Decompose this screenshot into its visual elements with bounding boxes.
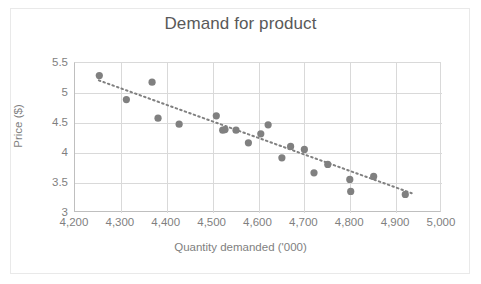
data-point[interactable] (370, 173, 377, 180)
y-axis-tick-label: 5 (38, 86, 68, 98)
x-axis-tick-label: 4,400 (144, 216, 188, 229)
data-point[interactable] (221, 126, 228, 133)
chart-title: Demand for product (0, 14, 481, 34)
data-point[interactable] (148, 79, 155, 86)
x-axis-tick-label: 4,900 (373, 216, 417, 229)
data-point[interactable] (278, 154, 285, 161)
data-point[interactable] (96, 72, 103, 79)
data-point[interactable] (176, 121, 183, 128)
x-axis-title: Quantity demanded ('000) (0, 241, 481, 253)
data-point[interactable] (232, 127, 239, 134)
y-axis-tick-label: 3.5 (38, 176, 68, 188)
x-axis-tick-labels: 4,2004,3004,4004,5004,6004,7004,8004,900… (0, 216, 481, 232)
data-point[interactable] (324, 161, 331, 168)
scatter-plot-svg (75, 63, 442, 213)
data-point[interactable] (346, 176, 353, 183)
x-axis-tick-label: 4,200 (52, 216, 96, 229)
x-axis-tick-label: 4,500 (190, 216, 234, 229)
data-point[interactable] (347, 188, 354, 195)
x-axis-tick-label: 5,000 (419, 216, 463, 229)
trendline (99, 80, 412, 193)
data-point[interactable] (301, 146, 308, 153)
x-axis-tick-label: 4,300 (98, 216, 142, 229)
data-point[interactable] (213, 112, 220, 119)
data-point[interactable] (257, 130, 264, 137)
data-point[interactable] (402, 191, 409, 198)
y-axis-tick-label: 4 (38, 146, 68, 158)
y-axis-tick-label: 4.5 (38, 116, 68, 128)
chart-screenshot: Demand for product Price ($) 33.544.555.… (0, 0, 481, 284)
plot-area (74, 62, 441, 212)
data-point[interactable] (310, 169, 317, 176)
data-point[interactable] (245, 139, 252, 146)
data-point[interactable] (154, 115, 161, 122)
x-axis-tick-label: 4,700 (281, 216, 325, 229)
x-axis-tick-label: 4,600 (236, 216, 280, 229)
y-axis-tick-label: 5.5 (38, 56, 68, 68)
data-point[interactable] (123, 96, 130, 103)
data-point[interactable] (265, 121, 272, 128)
data-point[interactable] (287, 143, 294, 150)
x-axis-tick-label: 4,800 (327, 216, 371, 229)
y-axis-title: Price ($) (12, 86, 24, 166)
